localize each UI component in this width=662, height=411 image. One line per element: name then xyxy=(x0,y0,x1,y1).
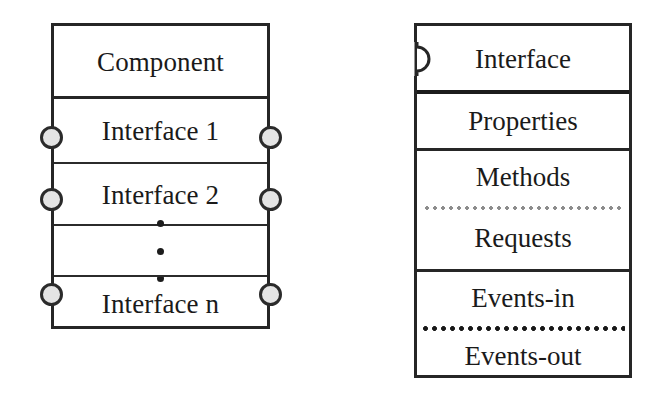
component-row-label-interface-2: Interface 2 xyxy=(102,182,219,209)
component-header-row: Component xyxy=(54,26,267,99)
interface-row-label-properties: Properties xyxy=(468,108,577,135)
component-row-interface-2: Interface 2 xyxy=(54,164,267,226)
interface-port-left-2[interactable] xyxy=(40,188,63,211)
interface-separator-methods-requests xyxy=(423,206,623,210)
interface-row-events-in: Events-in xyxy=(417,272,629,324)
interface-separator-events-in-out xyxy=(421,326,625,331)
component-box: Component Interface 1 Interface 2 Interf… xyxy=(51,23,270,329)
component-row-label-interface-1: Interface 1 xyxy=(102,118,219,145)
component-row-label-interface-n: Interface n xyxy=(102,291,219,318)
component-row-interface-n: Interface n xyxy=(54,277,267,332)
interface-row-label-methods: Methods xyxy=(476,164,571,191)
interface-row-requests: Requests xyxy=(417,211,629,265)
interface-row-label-events-out: Events-out xyxy=(465,343,582,370)
interface-row-label-requests: Requests xyxy=(474,225,572,252)
diagram-canvas: Component Interface 1 Interface 2 Interf… xyxy=(0,0,662,411)
interface-row-methods: Methods xyxy=(417,151,629,203)
component-header-label: Component xyxy=(97,49,224,76)
interface-row-label-events-in: Events-in xyxy=(471,285,574,312)
interface-row-properties: Properties xyxy=(417,94,629,149)
interface-row-events-out: Events-out xyxy=(417,332,629,381)
interface-port-right-2[interactable] xyxy=(259,188,282,211)
ellipsis-dot-1 xyxy=(157,220,164,227)
interface-port-right-n[interactable] xyxy=(259,283,282,306)
interface-header-label: Interface xyxy=(475,46,571,73)
component-row-interface-1: Interface 1 xyxy=(54,99,267,163)
interface-port-left-1[interactable] xyxy=(40,126,63,149)
vertical-ellipsis-icon xyxy=(54,220,267,282)
interface-header-row: Interface xyxy=(417,26,629,93)
interface-box: Interface Properties Methods Requests Ev… xyxy=(414,23,632,378)
interface-port-left-n[interactable] xyxy=(40,283,63,306)
interface-port-right-1[interactable] xyxy=(259,126,282,149)
ellipsis-dot-2 xyxy=(157,248,164,255)
